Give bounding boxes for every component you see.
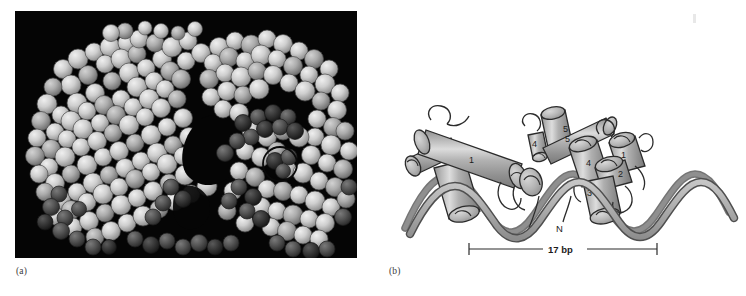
panel-a: (a) <box>0 0 373 296</box>
figure-root: (a) <box>0 0 746 296</box>
panel-b: 2 3 1 <box>373 0 746 296</box>
protein-dna-schematic: 2 3 1 <box>373 0 746 296</box>
scan-artifact-mark <box>693 14 696 23</box>
helix-label-left-5b: 5 <box>565 134 570 144</box>
panel-b-label: (b) <box>389 266 401 276</box>
helix-label-right-2: 2 <box>618 169 623 179</box>
scale-bar-label: 17 bp <box>548 244 573 255</box>
helix-label-left-4: 4 <box>532 139 537 149</box>
panel-a-label: (a) <box>16 266 27 276</box>
space-filling-model-image <box>15 11 357 258</box>
n-terminus-label-right: N <box>556 223 563 234</box>
helix-label-left-1: 1 <box>469 155 474 165</box>
helix-label-right-4: 4 <box>586 158 591 168</box>
helix-label-left-5: 5 <box>563 124 568 134</box>
